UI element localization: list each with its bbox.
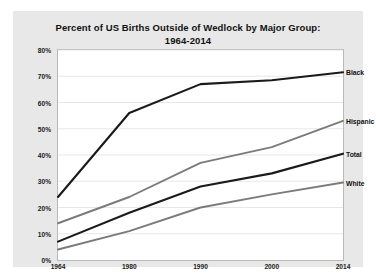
chart-card: Percent of US Births Outside of Wedlock … — [13, 11, 363, 267]
y-axis-tick-label: 10% — [17, 230, 51, 237]
chart-plot-svg — [13, 11, 363, 267]
series-lines — [58, 72, 343, 249]
y-axis-tick-label: 30% — [17, 178, 51, 185]
series-label-black: Black — [346, 69, 364, 76]
x-axis-tick-label: 1990 — [178, 263, 224, 270]
x-axis-tick-label: 2014 — [320, 263, 366, 270]
series-line-black — [58, 72, 343, 197]
series-label-hispanic: Hispanic — [346, 117, 374, 124]
x-axis-tick-label: 2000 — [249, 263, 295, 270]
series-label-white: White — [346, 179, 365, 186]
series-line-white — [58, 183, 343, 250]
gridlines — [58, 50, 343, 260]
y-axis-tick-label: 80% — [17, 47, 51, 54]
x-axis-tick-label: 1964 — [35, 263, 81, 270]
y-axis-tick-label: 50% — [17, 125, 51, 132]
series-line-total — [58, 154, 343, 242]
y-axis-tick-label: 70% — [17, 73, 51, 80]
series-label-total: Total — [346, 150, 362, 157]
y-axis-tick-label: 60% — [17, 99, 51, 106]
x-axis-tick-label: 1980 — [106, 263, 152, 270]
y-axis-tick-label: 40% — [17, 152, 51, 159]
y-axis-tick-label: 20% — [17, 204, 51, 211]
